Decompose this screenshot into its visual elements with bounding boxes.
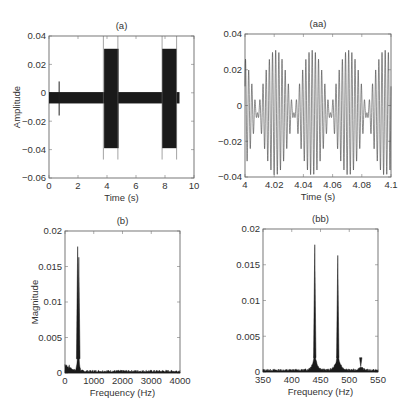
y-tick-label: 0.04 [224, 28, 243, 39]
x-axis-label: Time (s) [301, 191, 335, 202]
x-tick-label: 10 [189, 180, 200, 191]
y-tick-label: 0.02 [242, 223, 261, 234]
y-axis-label: Magnitude [29, 280, 40, 324]
panel-title: (bb) [312, 213, 329, 224]
spectral-peak [314, 245, 316, 358]
y-tick-label: 0.02 [224, 64, 243, 75]
y-tick-label: −0.04 [22, 144, 46, 155]
plot-series [65, 247, 180, 373]
y-axis-label: Amplitude [11, 86, 22, 128]
y-tick-label: 0 [41, 87, 46, 98]
y-tick-label: 0 [57, 367, 62, 378]
x-tick-label: 2 [75, 180, 80, 191]
panel-a: 0246810−0.06−0.04−0.0200.020.04(a)Time (… [11, 20, 199, 203]
plot-series [245, 50, 391, 174]
y-tick-label: 0.015 [236, 259, 260, 270]
y-tick-label: −0.02 [218, 136, 242, 147]
y-tick-label: −0.02 [22, 116, 46, 127]
x-axis-label: Time (s) [104, 192, 138, 203]
x-tick-label: 4.02 [265, 179, 284, 190]
y-tick-label: 0.02 [28, 59, 47, 70]
panel-bb: 35040045050055000.0050.010.0150.02(bb)Fr… [236, 213, 386, 397]
x-tick-label: 4.04 [294, 179, 313, 190]
y-tick-label: 0.005 [236, 331, 260, 342]
x-tick-label: 8 [162, 180, 167, 191]
plot-series [49, 36, 180, 160]
x-tick-label: 2000 [112, 375, 133, 386]
spectral-peak [360, 358, 362, 367]
y-tick-label: 0.01 [44, 296, 63, 307]
figure: 0246810−0.06−0.04−0.0200.020.04(a)Time (… [0, 0, 412, 417]
y-tick-label: 0.005 [38, 332, 62, 343]
panel-title: (a) [116, 20, 128, 31]
y-tick-label: 0.01 [242, 295, 261, 306]
x-tick-label: 4 [242, 179, 247, 190]
y-tick-label: −0.06 [22, 172, 46, 183]
x-tick-label: 450 [313, 374, 329, 385]
x-tick-label: 3000 [141, 375, 162, 386]
x-tick-label: 500 [341, 374, 357, 385]
x-tick-label: 4.08 [353, 179, 372, 190]
y-tick-label: 0.015 [38, 261, 62, 272]
x-tick-label: 6 [133, 180, 138, 191]
y-tick-label: −0.04 [218, 171, 242, 182]
y-tick-label: 0 [255, 366, 260, 377]
plot-series [263, 245, 378, 372]
panel-title: (aa) [310, 18, 327, 29]
plot-frame [263, 229, 378, 372]
y-tick-label: 0.04 [28, 30, 47, 41]
x-tick-label: 1000 [83, 375, 104, 386]
y-tick-label: 0 [237, 100, 242, 111]
panel-b: 0100020003000400000.0050.010.0150.02(b)F… [29, 215, 191, 398]
x-tick-label: 550 [370, 374, 386, 385]
x-tick-label: 4000 [169, 375, 190, 386]
x-axis-label: Frequency (Hz) [288, 386, 353, 397]
x-tick-label: 4.1 [384, 179, 397, 190]
x-tick-label: 4.06 [323, 179, 342, 190]
x-tick-label: 0 [46, 180, 51, 191]
panel-aa: 44.024.044.064.084.1−0.04−0.0200.020.04(… [218, 18, 398, 202]
plot-frame [65, 231, 180, 373]
x-tick-label: 0 [62, 375, 67, 386]
x-axis-label: Frequency (Hz) [90, 387, 155, 398]
spectral-peak [337, 255, 339, 357]
panel-title: (b) [117, 215, 129, 226]
y-tick-label: 0.02 [44, 225, 63, 236]
x-tick-label: 400 [284, 374, 300, 385]
x-tick-label: 4 [104, 180, 109, 191]
